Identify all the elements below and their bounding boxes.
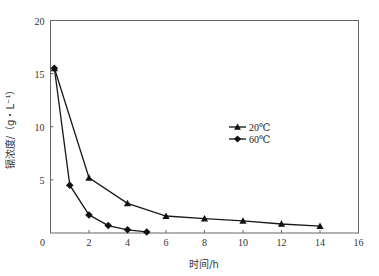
diamond-marker xyxy=(124,226,132,234)
legend-item: 60℃ xyxy=(229,134,270,145)
diamond-legend-icon xyxy=(234,135,241,142)
y-tick-label: 15 xyxy=(35,69,45,80)
x-tick-label: 8 xyxy=(202,237,207,248)
legend: 20℃60℃ xyxy=(229,122,270,145)
triangle-marker xyxy=(124,200,131,206)
x-tick-label: 12 xyxy=(277,237,287,248)
plot-frame xyxy=(51,21,359,234)
diamond-marker xyxy=(66,181,74,189)
legend-item: 20℃ xyxy=(229,122,270,133)
x-tick-label: 4 xyxy=(125,237,130,248)
x-tick-label: 0 xyxy=(40,237,45,248)
x-tick-label: 6 xyxy=(164,237,169,248)
triangle-marker xyxy=(85,174,92,180)
y-tick-label: 5 xyxy=(40,175,45,186)
legend-label: 20℃ xyxy=(249,122,270,133)
y-tick-label: 10 xyxy=(35,122,45,133)
series-60℃ xyxy=(51,65,151,236)
series-layer xyxy=(51,65,324,236)
line-chart: 0246810121416 5101520 时间/h 镉浓度/（g・L⁻¹） 2… xyxy=(0,0,379,276)
diamond-marker xyxy=(104,222,112,230)
x-tick-label: 10 xyxy=(238,237,248,248)
y-axis-label: 镉浓度/（g・L⁻¹） xyxy=(4,85,16,170)
x-tick-label: 16 xyxy=(354,237,364,248)
diamond-marker xyxy=(85,211,93,219)
y-tick-label: 20 xyxy=(35,16,45,27)
x-tick-label: 2 xyxy=(87,237,92,248)
x-axis-label: 时间/h xyxy=(189,258,219,270)
series-20℃ xyxy=(51,65,324,229)
diamond-marker xyxy=(143,228,151,236)
x-tick-label: 14 xyxy=(315,237,325,248)
legend-label: 60℃ xyxy=(249,134,270,145)
